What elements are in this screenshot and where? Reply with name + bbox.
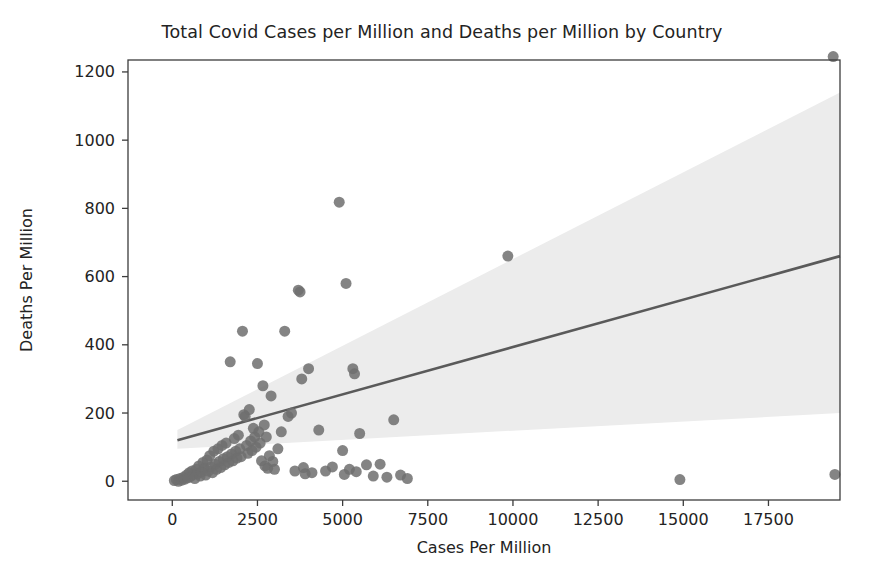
y-tick-label: 800 [84, 199, 115, 218]
y-tick-label: 1000 [74, 131, 115, 150]
data-point [237, 326, 248, 337]
data-point [674, 474, 685, 485]
x-tick-label: 0 [167, 510, 177, 529]
data-point [341, 278, 352, 289]
scatter-plot-canvas: 025005000750010000125001500017500 020040… [0, 0, 884, 582]
x-tick-label: 17500 [743, 510, 794, 529]
data-point [296, 373, 307, 384]
data-point [286, 408, 297, 419]
data-point [261, 431, 272, 442]
data-point [388, 414, 399, 425]
y-tick-label: 0 [105, 472, 115, 491]
y-axis-label: Deaths Per Million [17, 208, 36, 352]
data-point [269, 464, 280, 475]
data-point [334, 197, 345, 208]
data-point [272, 443, 283, 454]
x-axis-ticks: 025005000750010000125001500017500 [167, 500, 794, 529]
y-tick-label: 200 [84, 404, 115, 423]
data-point [313, 425, 324, 436]
data-point [829, 469, 840, 480]
y-axis-ticks: 020040060080010001200 [74, 62, 128, 490]
x-tick-label: 5000 [322, 510, 363, 529]
data-point [327, 461, 338, 472]
x-tick-label: 15000 [658, 510, 709, 529]
data-point [337, 445, 348, 456]
regression-confidence-band [177, 92, 840, 448]
confidence-band-group [177, 92, 840, 448]
data-point [257, 380, 268, 391]
data-point [233, 430, 244, 441]
chart-figure: Total Covid Cases per Million and Deaths… [0, 0, 884, 582]
x-tick-label: 12500 [573, 510, 624, 529]
x-axis-label: Cases Per Million [417, 538, 552, 557]
data-point [252, 358, 263, 369]
data-point [295, 286, 306, 297]
data-point [244, 404, 255, 415]
data-point [279, 326, 290, 337]
data-point [266, 390, 277, 401]
y-tick-label: 400 [84, 335, 115, 354]
y-tick-label: 1200 [74, 62, 115, 81]
data-point [259, 419, 270, 430]
data-point [502, 251, 513, 262]
data-point [351, 466, 362, 477]
data-point [368, 471, 379, 482]
data-point [306, 467, 317, 478]
y-tick-label: 600 [84, 267, 115, 286]
data-point [381, 472, 392, 483]
x-tick-label: 7500 [407, 510, 448, 529]
data-point [375, 459, 386, 470]
data-point [349, 368, 360, 379]
data-point [354, 428, 365, 439]
x-tick-label: 10000 [488, 510, 539, 529]
data-point [402, 473, 413, 484]
data-point [361, 459, 372, 470]
x-tick-label: 2500 [237, 510, 278, 529]
data-point [276, 426, 287, 437]
data-point [303, 363, 314, 374]
data-point [225, 356, 236, 367]
